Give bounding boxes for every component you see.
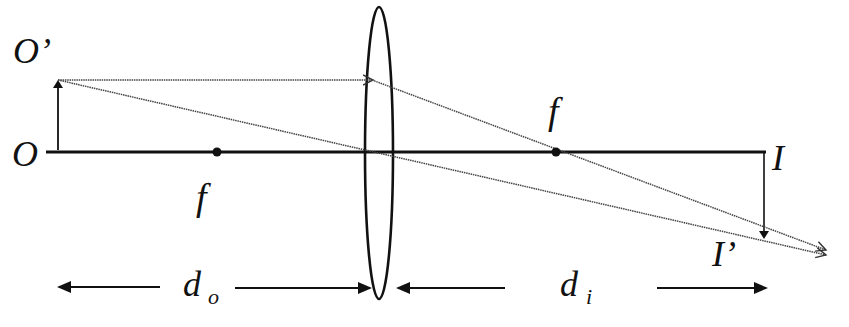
label-image-tip: I’ — [711, 234, 736, 274]
ray-parallel-refracted — [372, 80, 826, 250]
label-object-base: O — [12, 134, 38, 174]
label-focal-right: f — [548, 90, 563, 132]
image-distance-indicator: d i — [398, 264, 766, 309]
focal-point-left — [213, 148, 222, 157]
label-focal-left: f — [196, 176, 211, 218]
label-image-distance: d i — [560, 264, 592, 309]
label-object-top: O’ — [13, 31, 51, 71]
label-image-base: I — [771, 138, 786, 178]
object-distance-indicator: d o — [59, 264, 370, 309]
label-object-distance: d o — [183, 264, 219, 309]
focal-point-right — [552, 148, 561, 157]
lens-ray-diagram: O’ O f f I I’ d o d i — [0, 0, 849, 327]
